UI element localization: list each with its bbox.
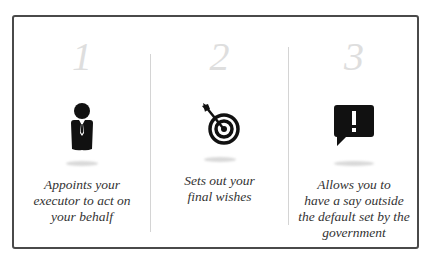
icon-shadow-1 — [66, 161, 98, 166]
icon-shadow-3 — [334, 161, 374, 166]
alert-speech-bubble-icon — [334, 105, 374, 151]
icon-shadow-2 — [204, 157, 236, 162]
benefits-card: 1 Appoints your executor to act on your … — [12, 15, 419, 249]
step-number-2: 2 — [151, 37, 288, 77]
step-number-1: 1 — [14, 37, 150, 77]
target-arrow-icon — [200, 101, 240, 149]
benefit-description-3: Allows you to have a say outside the def… — [289, 177, 419, 241]
benefit-description-1: Appoints your executor to act on your be… — [14, 177, 150, 225]
column-divider-1 — [150, 54, 151, 232]
businessman-icon — [69, 103, 95, 157]
benefit-description-2: Sets out your final wishes — [151, 173, 288, 205]
step-number-3: 3 — [289, 37, 419, 77]
